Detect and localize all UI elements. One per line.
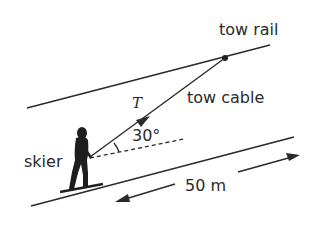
tow-rail-label: tow rail xyxy=(219,22,279,38)
slope-ground-line xyxy=(31,137,294,206)
diagram-canvas: tow rail T tow cable 30° skier 50 m xyxy=(0,0,322,227)
skis-icon xyxy=(60,184,103,192)
tension-label: T xyxy=(132,96,142,111)
skier-label: skier xyxy=(24,154,62,170)
distance-label: 50 m xyxy=(185,178,226,194)
angle-arc xyxy=(114,143,119,152)
distance-arrow-right-icon xyxy=(238,153,300,172)
tow-cable-label: tow cable xyxy=(187,90,264,106)
angle-label: 30° xyxy=(132,128,160,144)
skier-figure-icon xyxy=(69,127,91,189)
distance-arrow-left-icon xyxy=(115,184,175,202)
